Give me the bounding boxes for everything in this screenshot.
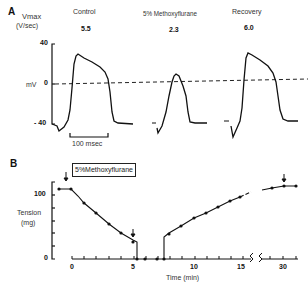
tension-unit: (mg) [21, 219, 35, 226]
y-tick-zero: 0 [44, 254, 48, 261]
x-tick-5: 5 [131, 263, 135, 270]
panel-b-letter: B [10, 158, 17, 169]
panel-a-axis [52, 44, 55, 124]
panel-b-x-axis [72, 253, 298, 262]
methoxyflurane-action-potential [157, 74, 207, 133]
control-action-potential [52, 54, 133, 131]
x-tick-10: 10 [190, 263, 198, 270]
tension-label: Tension [17, 209, 41, 216]
x-tick-15: 15 [237, 263, 245, 270]
recovery-action-potential [231, 53, 298, 137]
tension-curve [59, 186, 296, 259]
x-tick-30: 30 [279, 263, 287, 270]
x-axis-label: Time (min) [166, 274, 199, 281]
scale-bar-100ms [70, 133, 108, 137]
tension-data-points [57, 184, 297, 260]
y-tick-100: 100 [34, 190, 46, 197]
figure-graphics [0, 0, 308, 290]
drug-application-box: 5%Methoxyflurane [72, 163, 136, 177]
panel-b-y-axis [52, 182, 55, 259]
x-tick-0: 0 [70, 263, 74, 270]
arrow-icons [64, 172, 286, 237]
